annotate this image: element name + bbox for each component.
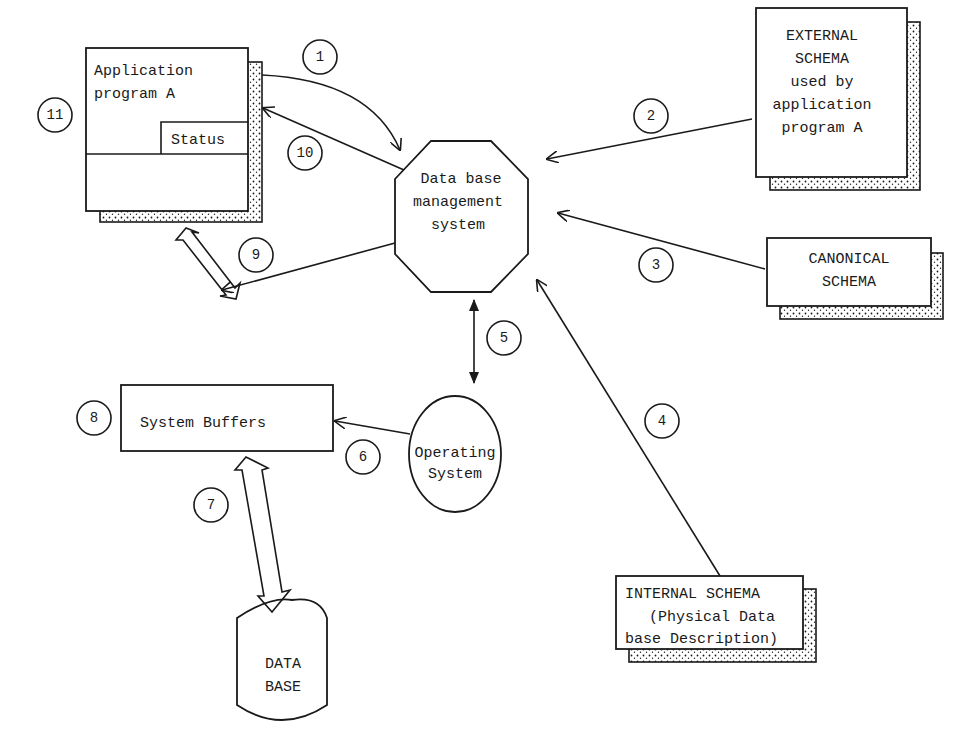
external-schema-label-5: program A (781, 120, 862, 137)
step-2-marker: 2 (634, 99, 668, 133)
arrow-2-external-to-dbms (547, 119, 752, 159)
step-3-marker: 3 (639, 248, 673, 282)
operating-system-label-2: System (428, 466, 482, 483)
external-schema-label-4: application (772, 97, 871, 114)
step-6-marker: 6 (346, 440, 380, 474)
internal-schema-label-1: INTERNAL SCHEMA (625, 586, 760, 603)
canonical-schema-label-1: CANONICAL (808, 251, 889, 268)
arrow-6-os-to-buffers (335, 421, 410, 434)
app-program-label-1: Application (94, 63, 193, 80)
external-schema-label-3: used by (790, 74, 853, 91)
svg-text:10: 10 (297, 145, 314, 161)
svg-text:11: 11 (47, 107, 64, 123)
dbms-node: Data base management system (395, 141, 528, 292)
dbms-label-1: Data base (420, 171, 501, 188)
arrow-9-dbms-to-app (222, 243, 395, 290)
internal-schema-label-2: (Physical Data (649, 609, 775, 626)
dbms-label-3: system (431, 217, 485, 234)
svg-text:9: 9 (252, 247, 260, 263)
svg-text:2: 2 (647, 108, 655, 124)
arrow-4-internal-to-dbms (537, 280, 720, 576)
canonical-schema-box (767, 238, 931, 306)
canonical-schema-label-2: SCHEMA (822, 274, 876, 291)
application-program-node: Application program A Status (86, 48, 262, 222)
step-8-marker: 8 (77, 401, 111, 435)
arrow-10-dbms-to-app-status (263, 108, 404, 170)
app-program-label-2: program A (94, 86, 175, 103)
step-10-marker: 10 (288, 136, 322, 170)
database-node: DATA BASE (237, 599, 327, 720)
operating-system-label-1: Operating (414, 445, 495, 462)
arrow-3-canonical-to-dbms (558, 213, 765, 269)
step-4-marker: 4 (645, 404, 679, 438)
step-9-marker: 9 (239, 238, 273, 272)
step-7-marker: 7 (194, 488, 228, 522)
svg-text:6: 6 (359, 449, 367, 465)
svg-text:5: 5 (500, 330, 508, 346)
svg-text:7: 7 (207, 497, 215, 513)
external-schema-label-1: EXTERNAL (786, 28, 858, 45)
internal-schema-node: INTERNAL SCHEMA (Physical Data base Desc… (616, 576, 816, 662)
canonical-schema-node: CANONICAL SCHEMA (767, 238, 943, 319)
system-buffers-node: System Buffers (121, 385, 333, 451)
dbms-label-2: management (413, 194, 503, 211)
svg-text:8: 8 (90, 410, 98, 426)
external-schema-node: EXTERNAL SCHEMA used by application prog… (756, 8, 920, 190)
step-11-marker: 11 (38, 98, 72, 132)
internal-schema-label-3: base Description) (625, 631, 778, 648)
status-label: Status (171, 132, 225, 149)
database-label-1: DATA (265, 656, 301, 673)
database-label-2: BASE (265, 679, 301, 696)
svg-text:1: 1 (316, 49, 324, 65)
dbms-architecture-diagram: Application program A Status Data base m… (0, 0, 980, 751)
step-1-marker: 1 (303, 40, 337, 74)
svg-text:3: 3 (652, 257, 660, 273)
external-schema-label-2: SCHEMA (795, 51, 849, 68)
svg-text:4: 4 (658, 413, 666, 429)
operating-system-node: Operating System (409, 396, 501, 512)
system-buffers-label: System Buffers (140, 415, 266, 432)
step-5-marker: 5 (487, 321, 521, 355)
arrow-7-buffers-database-double (235, 457, 290, 612)
